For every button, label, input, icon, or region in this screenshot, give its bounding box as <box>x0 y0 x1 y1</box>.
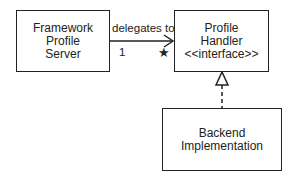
handler-stereotype: <<interface>> <box>184 48 258 61</box>
backend-label-line2: Implementation <box>181 140 263 153</box>
handler-label-line2: Handler <box>184 35 258 48</box>
profile-handler-interface-box: Profile Handler <<interface>> <box>174 10 269 72</box>
source-multiplicity: 1 <box>119 46 125 58</box>
hollow-triangle-icon <box>216 72 228 85</box>
server-label-line1: Framework <box>33 22 93 35</box>
server-label-line2: Profile <box>33 35 93 48</box>
backend-implementation-box: Backend Implementation <box>162 108 282 171</box>
handler-label-line1: Profile <box>184 22 258 35</box>
framework-profile-server-box: Framework Profile Server <box>16 10 110 72</box>
delegates-to-label: delegates to <box>112 22 175 34</box>
backend-label-line1: Backend <box>181 127 263 140</box>
server-label-line3: Server <box>33 48 93 61</box>
star-multiplicity-icon: ★ <box>158 45 170 60</box>
